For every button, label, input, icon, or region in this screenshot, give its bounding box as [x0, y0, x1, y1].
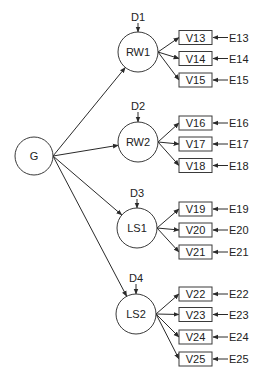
- latent-label: LS2: [126, 308, 146, 320]
- error-label: E22: [229, 288, 249, 300]
- latent-label: G: [30, 150, 39, 162]
- path-g-to-ls2: [53, 156, 127, 296]
- loading-path-v14: [158, 52, 179, 59]
- error-label: E18: [229, 160, 249, 172]
- error-label: E13: [229, 32, 249, 44]
- indicator-label: V17: [186, 138, 206, 150]
- loading-path-v23: [156, 314, 179, 315]
- indicator-label: V22: [186, 288, 206, 300]
- latent-label: RW1: [126, 46, 150, 58]
- indicator-label: V21: [186, 246, 206, 258]
- loading-path-v20: [157, 228, 179, 230]
- loading-path-v22: [156, 294, 179, 314]
- path-g-to-rw2: [53, 145, 118, 156]
- indicator-label: V20: [186, 224, 206, 236]
- disturbance-label: D1: [131, 11, 145, 23]
- indicator-label: V14: [186, 53, 206, 65]
- disturbance-label: D4: [129, 272, 143, 284]
- loading-path-v21: [157, 228, 179, 252]
- path-g-to-ls1: [53, 156, 122, 215]
- indicator-label: V16: [186, 117, 206, 129]
- error-label: E23: [229, 309, 249, 321]
- indicator-label: V13: [186, 32, 206, 44]
- loading-path-v19: [157, 209, 179, 228]
- loading-path-v16: [158, 123, 179, 142]
- loading-path-v13: [158, 38, 179, 53]
- latent-label: RW2: [126, 136, 150, 148]
- loading-path-v15: [158, 52, 179, 80]
- loading-path-v24: [156, 314, 179, 337]
- indicator-label: V18: [186, 160, 206, 172]
- loading-path-v17: [158, 142, 179, 144]
- disturbance-label: D2: [131, 100, 145, 112]
- nodes: GRW1D1V13E13V14E14V15E15RW2D2V16E16V17E1…: [15, 11, 249, 366]
- error-label: E19: [229, 203, 249, 215]
- indicator-label: V23: [186, 309, 206, 321]
- error-label: E16: [229, 117, 249, 129]
- latent-label: LS1: [127, 222, 147, 234]
- error-label: E15: [229, 74, 249, 86]
- indicator-label: V15: [186, 74, 206, 86]
- indicator-label: V25: [186, 353, 206, 365]
- error-label: E21: [229, 246, 249, 258]
- error-label: E25: [229, 353, 249, 365]
- error-label: E20: [229, 224, 249, 236]
- sem-path-diagram: GRW1D1V13E13V14E14V15E15RW2D2V16E16V17E1…: [0, 0, 259, 382]
- error-label: E24: [229, 331, 249, 343]
- error-label: E17: [229, 138, 249, 150]
- indicator-label: V19: [186, 203, 206, 215]
- loading-path-v18: [158, 142, 179, 166]
- disturbance-label: D3: [130, 187, 144, 199]
- error-label: E14: [229, 53, 249, 65]
- path-g-to-rw1: [53, 67, 125, 156]
- indicator-label: V24: [186, 331, 206, 343]
- loading-path-v25: [156, 314, 179, 359]
